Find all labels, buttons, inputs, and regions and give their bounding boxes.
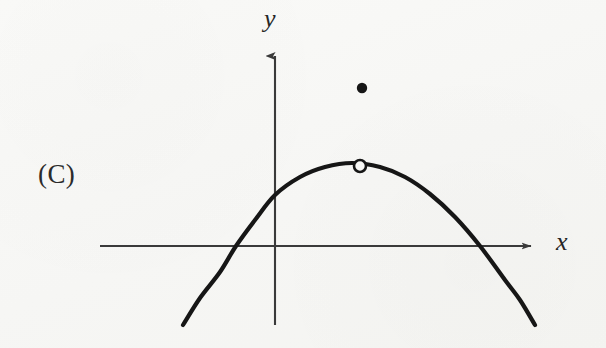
graph-canvas bbox=[0, 0, 606, 348]
figure-container: (C) y x bbox=[0, 0, 606, 348]
y-axis-label: y bbox=[264, 6, 276, 32]
x-axis-label: x bbox=[556, 229, 568, 255]
open-point-marker-icon bbox=[354, 160, 366, 172]
parabola-curve bbox=[183, 163, 535, 325]
filled-point-marker-icon bbox=[357, 83, 367, 93]
choice-label: (C) bbox=[38, 161, 75, 188]
